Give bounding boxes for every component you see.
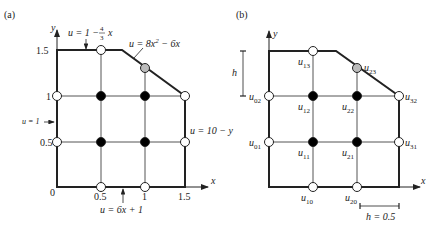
- h-label: h: [232, 67, 237, 78]
- node-interior: [97, 138, 106, 147]
- label-u13: u13: [298, 56, 311, 70]
- y-axis-label: y: [272, 28, 278, 39]
- label-u11: u11: [298, 147, 310, 161]
- label-u31: u31: [405, 137, 418, 151]
- bc-top-var: x: [107, 27, 113, 38]
- label-u22: u22: [342, 101, 355, 115]
- node-u11: [309, 138, 318, 147]
- node-u02: [265, 92, 274, 101]
- figure: (a) y x 1.5 1 0.5 0 0.5 1 1.5 u = 1 − 4 …: [0, 0, 446, 228]
- panel-b-label: (b): [236, 9, 248, 21]
- node-u31: [395, 138, 404, 147]
- domain-boundary: [57, 50, 185, 187]
- bc-right-label: u = 10 − y: [190, 125, 233, 136]
- node-u22: [353, 92, 362, 101]
- node-u12: [309, 92, 318, 101]
- node-u32: [395, 92, 404, 101]
- node-u23: [353, 64, 362, 73]
- label-u10: u10: [301, 192, 314, 206]
- panel-b: (b) y x h h = 0.5: [232, 9, 426, 222]
- node-interior: [141, 138, 150, 147]
- label-u12: u12: [298, 101, 311, 115]
- node-labels: u13 u23 u02 u12 u22 u32 u01 u11 u21 u31 …: [249, 56, 418, 206]
- node-u10: [309, 183, 318, 192]
- node-boundary: [181, 92, 190, 101]
- domain-boundary: [269, 51, 399, 187]
- node-interior: [141, 92, 150, 101]
- node-boundary: [97, 183, 106, 192]
- label-u23: u23: [364, 62, 377, 76]
- panel-a-label: (a): [4, 9, 15, 21]
- grid-lines: [57, 50, 185, 187]
- node-u20: [353, 183, 362, 192]
- label-u21: u21: [342, 147, 355, 161]
- label-u02: u02: [249, 91, 262, 105]
- node-interior: [97, 92, 106, 101]
- node-diag: [141, 64, 150, 73]
- node-u13: [309, 47, 318, 56]
- y-tick-0-5: 0.5: [40, 137, 53, 148]
- bc-bottom-label: u = 6x + 1: [100, 204, 143, 215]
- label-u32: u32: [405, 91, 418, 105]
- grid-lines: [269, 51, 399, 187]
- x-axis-label: x: [420, 175, 426, 186]
- x-tick-1: 1: [142, 191, 147, 202]
- node-boundary: [53, 92, 62, 101]
- bc-top-frac-den: 3: [100, 34, 104, 42]
- x-tick-0: 0: [50, 187, 55, 198]
- bc-top-frac-num: 4: [100, 25, 104, 33]
- nodes-a: [53, 46, 190, 192]
- y-tick-1-5: 1.5: [36, 45, 49, 56]
- y-tick-1: 1: [46, 91, 51, 102]
- h-value-label: h = 0.5: [366, 211, 395, 222]
- y-axis-label: y: [50, 22, 56, 33]
- x-tick-1-5: 1.5: [178, 191, 191, 202]
- bc-top-label: u = 1 −: [68, 27, 99, 38]
- node-u21: [353, 138, 362, 147]
- x-tick-0-5: 0.5: [94, 191, 107, 202]
- node-boundary: [53, 138, 62, 147]
- bc-left-label: u = 1: [22, 117, 39, 126]
- node-u01: [265, 138, 274, 147]
- label-u01: u01: [249, 137, 262, 151]
- panel-a: (a) y x 1.5 1 0.5 0 0.5 1 1.5 u = 1 − 4 …: [4, 9, 233, 215]
- nodes-b: [265, 47, 404, 192]
- node-boundary: [141, 183, 150, 192]
- node-boundary: [181, 138, 190, 147]
- node-boundary: [97, 46, 106, 55]
- label-u20: u20: [345, 192, 358, 206]
- bc-diag-label: u = 8x2 − 6x: [129, 37, 180, 49]
- bc-diag-pointer: [134, 48, 143, 58]
- x-axis-label: x: [210, 175, 216, 186]
